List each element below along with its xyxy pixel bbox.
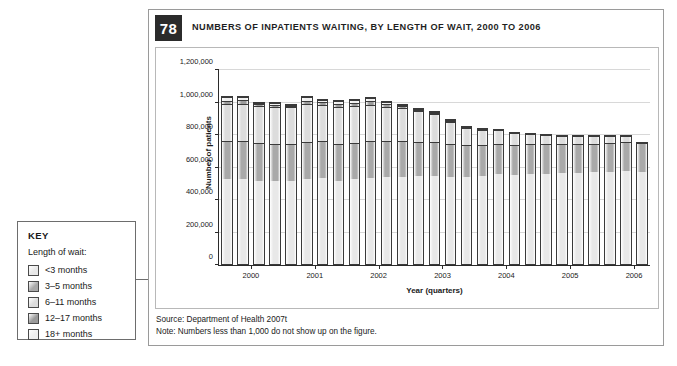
bar-segment xyxy=(350,106,359,143)
bar-stack xyxy=(509,132,520,265)
chart-frame: Number of patients 0200,000400,000600,00… xyxy=(155,47,659,309)
x-tick-label: 2006 xyxy=(626,271,643,280)
bar-segment xyxy=(318,178,327,264)
x-tick-label: 2005 xyxy=(562,271,579,280)
bar-segment xyxy=(478,130,487,145)
bar-segment xyxy=(573,144,582,173)
bar-segment xyxy=(494,174,503,264)
bar-segment xyxy=(238,179,247,264)
bar-segment xyxy=(494,144,503,174)
x-tick-label: 2002 xyxy=(370,271,387,280)
bar-segment xyxy=(414,176,423,264)
bar-stack xyxy=(413,108,424,265)
key-item-label: 3–5 months xyxy=(45,281,92,291)
bar-stack xyxy=(556,135,567,265)
y-tick-label: 600,000 xyxy=(186,154,213,163)
bar-segment xyxy=(270,144,279,181)
y-tick-label: 1,000,000 xyxy=(180,89,213,98)
bar-segment xyxy=(589,172,598,264)
figure-note: Note: Numbers less than 1,000 do not sho… xyxy=(156,326,656,338)
bar-segment xyxy=(621,142,630,171)
bar-segment xyxy=(254,143,263,181)
x-tick-mark xyxy=(442,265,443,269)
bar-segment xyxy=(557,173,566,264)
x-tick-mark xyxy=(506,265,507,269)
figure-number-badge: 78 xyxy=(155,15,182,41)
figure-header: 78 NUMBERS OF INPATIENTS WAITING, BY LEN… xyxy=(149,10,663,47)
bar-stack xyxy=(253,102,264,265)
bar-segment xyxy=(350,179,359,264)
x-axis-title: Year (quarters) xyxy=(219,286,650,295)
bar-segment xyxy=(446,144,455,177)
bar-stack xyxy=(381,101,392,265)
key-item-label: 18+ months xyxy=(45,329,92,339)
bar-segment xyxy=(541,174,550,264)
bar-segment xyxy=(414,142,423,176)
bar-stack xyxy=(221,96,232,265)
y-tick-label: 400,000 xyxy=(186,187,213,196)
bar-stack xyxy=(365,97,376,265)
bar-segment xyxy=(238,104,247,141)
bar-segment xyxy=(382,141,391,177)
bar-segment xyxy=(605,136,614,143)
bar-segment xyxy=(366,141,375,178)
bar-segment xyxy=(302,142,311,179)
bar-stack xyxy=(636,142,647,266)
bar-segment xyxy=(462,128,471,146)
bar-stack xyxy=(540,134,551,265)
key-swatch-icon xyxy=(28,329,39,340)
bar-stack xyxy=(620,135,631,265)
x-tick-mark xyxy=(315,265,316,269)
bar-stack xyxy=(477,128,488,265)
bar-segment xyxy=(446,122,455,143)
bar-stack xyxy=(397,104,408,265)
figure-page: KEY Length of wait: <3 months3–5 months6… xyxy=(0,0,677,366)
key-subtitle: Length of wait: xyxy=(28,247,87,257)
bar-segment xyxy=(382,107,391,142)
key-legend-item: 3–5 months xyxy=(28,278,133,294)
bar-segment xyxy=(430,176,439,264)
key-legend-item: <3 months xyxy=(28,262,133,278)
bar-segment xyxy=(557,136,566,144)
bar-stack xyxy=(525,133,536,265)
bars-layer: 2000200120022003200420052006 xyxy=(219,70,650,265)
bar-segment xyxy=(302,104,311,141)
x-tick-label: 2001 xyxy=(306,271,323,280)
key-legend-item: 12–17 months xyxy=(28,310,133,326)
y-tick-label: 800,000 xyxy=(186,122,213,131)
bar-stack xyxy=(604,135,615,265)
bar-segment xyxy=(526,144,535,174)
bar-segment xyxy=(334,181,343,264)
bar-segment xyxy=(254,181,263,264)
key-item-label: <3 months xyxy=(45,265,87,275)
key-legend-item: 6–11 months xyxy=(28,294,133,310)
bar-segment xyxy=(286,181,295,264)
bar-segment xyxy=(334,144,343,180)
bar-segment xyxy=(526,134,535,144)
bar-segment xyxy=(557,144,566,173)
key-swatch-icon xyxy=(28,297,39,308)
bar-segment xyxy=(605,143,614,172)
y-tick-label: 0 xyxy=(209,252,213,261)
bar-segment xyxy=(286,144,295,181)
bar-segment xyxy=(589,136,598,143)
x-tick-mark xyxy=(570,265,571,269)
bar-segment xyxy=(398,108,407,141)
bar-segment xyxy=(254,106,263,143)
key-connector-line xyxy=(136,279,148,280)
bar-segment xyxy=(382,177,391,264)
bar-segment xyxy=(270,107,279,144)
bar-stack xyxy=(572,135,583,265)
key-swatch-icon xyxy=(28,265,39,276)
plot-area: 0200,000400,000600,000800,0001,000,0001,… xyxy=(218,70,650,266)
bar-segment xyxy=(414,111,423,141)
bar-stack xyxy=(333,100,344,265)
bar-segment xyxy=(478,176,487,264)
bar-stack xyxy=(588,135,599,265)
x-tick-mark xyxy=(251,265,252,269)
bar-segment xyxy=(462,177,471,264)
bar-segment xyxy=(222,104,231,141)
bar-segment xyxy=(318,141,327,178)
bar-stack xyxy=(445,119,456,265)
key-legend-list: <3 months3–5 months6–11 months12–17 mont… xyxy=(28,262,133,342)
